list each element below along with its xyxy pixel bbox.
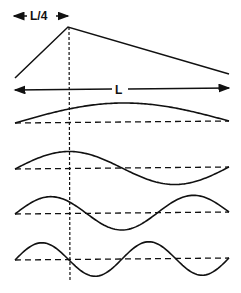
wave-curve <box>15 103 229 123</box>
arrow-left-icon <box>15 89 112 90</box>
length-label: L <box>115 83 122 97</box>
baseline <box>15 121 229 123</box>
quarter-label: L/4 <box>30 9 48 23</box>
mode-1 <box>15 103 229 123</box>
pluck-point-marker <box>69 27 70 280</box>
plucked-string-shape <box>15 27 229 78</box>
wave-curve <box>15 242 229 277</box>
mode-2 <box>15 152 229 185</box>
arrow-right-icon <box>128 88 229 89</box>
quarter-length-dimension: L/4 <box>14 9 68 23</box>
mode-4 <box>15 242 229 277</box>
vibration-modes <box>15 103 229 276</box>
baseline <box>15 212 229 214</box>
diagram-canvas: L/4 L <box>0 0 241 293</box>
mode-3 <box>15 195 229 230</box>
length-dimension: L <box>15 82 229 97</box>
wave-curve <box>15 152 229 185</box>
